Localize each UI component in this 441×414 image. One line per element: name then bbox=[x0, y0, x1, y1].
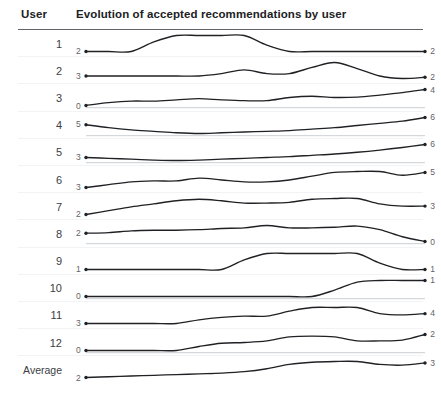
sparkline-path bbox=[86, 226, 425, 242]
sparkline-start-value: 2 bbox=[76, 229, 81, 238]
sparkline-start-dot bbox=[84, 349, 87, 352]
sparkline-end-dot bbox=[423, 267, 426, 270]
sparkline-start-value: 3 bbox=[76, 153, 81, 162]
sparkline-cell[interactable]: 32 bbox=[72, 57, 437, 84]
table-row[interactable]: 820 bbox=[0, 220, 441, 247]
table-row[interactable]: 1202 bbox=[0, 329, 441, 356]
sparkline-chart bbox=[72, 302, 437, 329]
sparkline-end-value: 5 bbox=[430, 168, 435, 177]
table-row[interactable]: 232 bbox=[0, 57, 441, 84]
sparkline-path bbox=[86, 198, 425, 214]
sparkline-path bbox=[86, 307, 425, 324]
sparkline-cell[interactable]: 22 bbox=[72, 30, 437, 57]
row-label-average: Average bbox=[0, 356, 68, 383]
sparkline-chart bbox=[72, 112, 437, 139]
sparkline-rows: 122232304456536635723820911100111341202A… bbox=[0, 30, 441, 414]
sparkline-path bbox=[86, 144, 425, 160]
sparkline-start-value: 0 bbox=[76, 102, 81, 111]
sparkline-cell[interactable]: 23 bbox=[72, 356, 437, 383]
row-label-4: 4 bbox=[0, 112, 68, 139]
sparkline-start-value: 2 bbox=[76, 47, 81, 56]
sparkline-end-value: 0 bbox=[430, 238, 435, 247]
sparkline-start-value: 3 bbox=[76, 183, 81, 192]
table-row[interactable]: 1134 bbox=[0, 302, 441, 329]
row-label-10: 10 bbox=[0, 275, 68, 302]
sparkline-start-value: 1 bbox=[76, 265, 81, 274]
sparkline-start-dot bbox=[84, 232, 87, 235]
sparkline-end-value: 1 bbox=[430, 276, 435, 285]
table-row[interactable]: 122 bbox=[0, 30, 441, 57]
sparkline-path bbox=[86, 171, 425, 187]
sparkline-cell[interactable]: 56 bbox=[72, 112, 437, 139]
sparkline-end-value: 2 bbox=[430, 330, 435, 339]
sparkline-start-dot bbox=[84, 267, 87, 270]
sparkline-cell[interactable]: 01 bbox=[72, 275, 437, 302]
table-row[interactable]: 304 bbox=[0, 84, 441, 111]
sparkline-start-dot bbox=[84, 104, 87, 107]
sparkline-start-dot bbox=[84, 50, 87, 53]
sparkline-cell[interactable]: 20 bbox=[72, 220, 437, 247]
sparkline-end-dot bbox=[423, 88, 426, 91]
sparkline-cell[interactable]: 02 bbox=[72, 329, 437, 356]
sparkline-start-value: 3 bbox=[76, 72, 81, 81]
sparkline-end-dot bbox=[423, 171, 426, 174]
sparkline-cell[interactable]: 04 bbox=[72, 84, 437, 111]
table-row[interactable]: 723 bbox=[0, 193, 441, 220]
sparkline-path bbox=[86, 335, 425, 351]
sparkline-end-dot bbox=[423, 278, 426, 281]
sparkline-start-dot bbox=[84, 75, 87, 78]
table-row[interactable]: 536 bbox=[0, 139, 441, 166]
sparkline-chart bbox=[72, 275, 437, 302]
sparkline-start-dot bbox=[84, 186, 87, 189]
table-row[interactable]: 911 bbox=[0, 248, 441, 275]
table-row[interactable]: 635 bbox=[0, 166, 441, 193]
sparkline-chart bbox=[72, 248, 437, 275]
sparkline-start-value: 2 bbox=[76, 210, 81, 219]
sparkline-end-dot bbox=[423, 333, 426, 336]
sparkline-start-dot bbox=[84, 294, 87, 297]
sparkline-end-dot bbox=[423, 205, 426, 208]
sparkline-chart bbox=[72, 139, 437, 166]
sparkline-chart bbox=[72, 356, 437, 383]
row-label-9: 9 bbox=[0, 248, 68, 275]
sparkline-end-dot bbox=[423, 143, 426, 146]
sparkline-end-dot bbox=[423, 240, 426, 243]
sparkline-cell[interactable]: 34 bbox=[72, 302, 437, 329]
sparkline-chart bbox=[72, 220, 437, 247]
sparkline-chart bbox=[72, 166, 437, 193]
table-row[interactable]: Average23 bbox=[0, 356, 441, 383]
table-row[interactable]: 1001 bbox=[0, 275, 441, 302]
sparkline-start-dot bbox=[84, 376, 87, 379]
row-label-8: 8 bbox=[0, 220, 68, 247]
sparkline-cell[interactable]: 11 bbox=[72, 248, 437, 275]
row-label-11: 11 bbox=[0, 302, 68, 329]
table-row[interactable]: 456 bbox=[0, 112, 441, 139]
sparkline-start-value: 3 bbox=[76, 319, 81, 328]
sparkline-end-value: 6 bbox=[430, 113, 435, 122]
sparkline-end-value: 4 bbox=[430, 86, 435, 95]
sparkline-start-value: 0 bbox=[76, 346, 81, 355]
sparkline-start-dot bbox=[84, 156, 87, 159]
sparkline-chart bbox=[72, 57, 437, 84]
sparkline-start-dot bbox=[84, 322, 87, 325]
sparkline-start-dot bbox=[84, 213, 87, 216]
sparkline-end-value: 3 bbox=[430, 359, 435, 368]
sparkline-chart bbox=[72, 30, 437, 57]
sparkline-cell[interactable]: 23 bbox=[72, 193, 437, 220]
sparkline-end-dot bbox=[423, 115, 426, 118]
sparkline-cell[interactable]: 36 bbox=[72, 139, 437, 166]
sparkline-end-value: 1 bbox=[430, 265, 435, 274]
sparkline-end-value: 3 bbox=[430, 202, 435, 211]
sparkline-start-value: 0 bbox=[76, 292, 81, 301]
table-header: User Evolution of accepted recommendatio… bbox=[0, 0, 441, 30]
sparkline-path bbox=[86, 117, 425, 133]
sparkline-chart bbox=[72, 193, 437, 220]
row-label-7: 7 bbox=[0, 193, 68, 220]
row-label-1: 1 bbox=[0, 30, 68, 57]
row-label-2: 2 bbox=[0, 57, 68, 84]
row-label-12: 12 bbox=[0, 329, 68, 356]
sparkline-cell[interactable]: 35 bbox=[72, 166, 437, 193]
sparkline-end-value: 6 bbox=[430, 140, 435, 149]
sparkline-end-value: 2 bbox=[430, 73, 435, 82]
row-label-3: 3 bbox=[0, 84, 68, 111]
